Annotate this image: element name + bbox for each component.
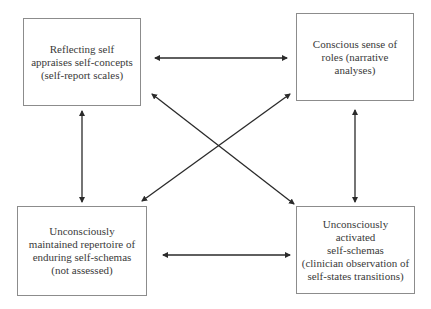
node-conscious-sense-of-roles-label: Conscious sense of roles (narrative anal… — [313, 38, 397, 77]
node-unconsciously-maintained-repertoire-label: Unconsciously maintained repertoire of e… — [29, 225, 135, 277]
node-unconsciously-activated-self-schemas-label: Unconsciously activated self-schemas (cl… — [302, 218, 410, 283]
edge-tr-bl-arrow — [142, 94, 290, 201]
node-reflecting-self: Reflecting self appraises self-concepts … — [23, 18, 141, 106]
edge-tl-br-arrow — [152, 94, 294, 204]
node-reflecting-self-label: Reflecting self appraises self-concepts … — [31, 43, 133, 82]
node-unconsciously-activated-self-schemas: Unconsciously activated self-schemas (cl… — [296, 206, 415, 294]
node-conscious-sense-of-roles: Conscious sense of roles (narrative anal… — [296, 13, 414, 101]
node-unconsciously-maintained-repertoire: Unconsciously maintained repertoire of e… — [17, 206, 147, 296]
